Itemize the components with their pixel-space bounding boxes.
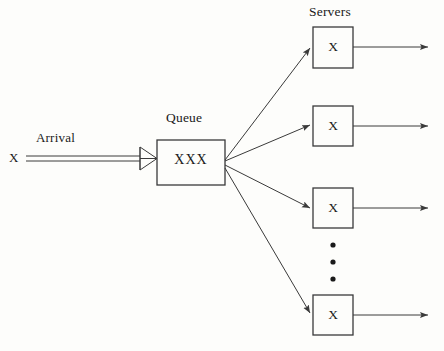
arrival-label: Arrival xyxy=(36,130,75,146)
server-box-3-symbol: X xyxy=(313,200,353,216)
queue-box-content: XXX xyxy=(157,152,225,168)
departure-arrows xyxy=(353,47,428,315)
source-symbol: X xyxy=(9,150,18,166)
queue-label: Queue xyxy=(166,110,202,126)
servers-label: Servers xyxy=(309,4,351,20)
server-box-1-symbol: X xyxy=(313,39,353,55)
routing-lines xyxy=(225,48,310,313)
routing-line-4 xyxy=(225,168,310,313)
server-box-2-symbol: X xyxy=(313,118,353,134)
vertical-ellipsis-icon xyxy=(330,242,335,281)
server-box-4-symbol: X xyxy=(313,307,353,323)
diagram-canvas xyxy=(0,0,444,351)
queueing-system-diagram: Servers Queue Arrival X XXX X X X X xyxy=(0,0,444,351)
routing-line-3 xyxy=(225,165,310,208)
arrival-arrow xyxy=(26,147,157,170)
